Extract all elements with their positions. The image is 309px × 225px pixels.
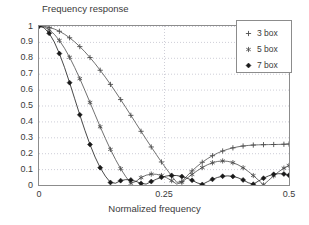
y-tick-label: 0.3 bbox=[0, 133, 33, 142]
data-point-marker bbox=[261, 182, 266, 185]
chart-legend: 3 box5 box7 box bbox=[236, 20, 292, 73]
diamond-icon bbox=[242, 59, 255, 72]
data-point-marker bbox=[246, 30, 251, 35]
y-tick-label: 1 bbox=[0, 22, 33, 31]
data-point-marker bbox=[169, 178, 174, 183]
legend-item-5-box[interactable]: 5 box bbox=[237, 41, 291, 57]
data-point-marker bbox=[88, 142, 93, 147]
data-point-marker bbox=[138, 129, 143, 134]
diamond-marker bbox=[271, 172, 276, 177]
data-point-marker bbox=[118, 97, 123, 102]
diamond-marker bbox=[88, 142, 93, 147]
diamond-marker bbox=[139, 181, 144, 185]
data-point-marker bbox=[251, 142, 256, 147]
data-point-marker bbox=[128, 177, 133, 182]
data-point-marker bbox=[200, 182, 205, 185]
y-tick-label: 0.6 bbox=[0, 85, 33, 94]
chart-root: Frequency response 00.10.20.30.40.50.60.… bbox=[0, 0, 309, 225]
legend-item-7-box[interactable]: 7 box bbox=[237, 57, 291, 73]
data-point-marker bbox=[287, 163, 289, 168]
x-tick-label: 0.5 bbox=[283, 190, 296, 199]
data-point-marker bbox=[118, 178, 123, 183]
x-tick-label: 0 bbox=[36, 190, 41, 199]
data-point-marker bbox=[286, 141, 289, 146]
data-point-marker bbox=[241, 165, 246, 170]
y-tick-label: 0.9 bbox=[0, 37, 33, 46]
data-point-marker bbox=[98, 124, 103, 129]
data-point-marker bbox=[200, 165, 205, 170]
data-point-marker bbox=[261, 142, 266, 147]
diamond-marker bbox=[261, 176, 266, 181]
y-tick-label: 0.2 bbox=[0, 149, 33, 158]
diamond-marker bbox=[251, 182, 256, 185]
diamond-marker bbox=[77, 112, 82, 117]
data-point-marker bbox=[210, 177, 215, 182]
data-point-marker bbox=[98, 165, 103, 170]
data-point-marker bbox=[78, 76, 83, 81]
diamond-marker bbox=[246, 63, 251, 68]
legend-item-3-box[interactable]: 3 box bbox=[237, 25, 291, 41]
data-point-marker bbox=[57, 29, 62, 34]
diamond-marker bbox=[159, 175, 164, 180]
data-point-marker bbox=[139, 181, 144, 185]
diamond-marker bbox=[241, 177, 246, 182]
data-point-marker bbox=[128, 113, 133, 118]
diamond-marker bbox=[179, 174, 184, 179]
data-point-marker bbox=[271, 142, 276, 147]
data-point-marker bbox=[108, 82, 113, 87]
y-tick-label: 0.8 bbox=[0, 53, 33, 62]
diamond-marker bbox=[57, 51, 62, 56]
data-point-marker bbox=[281, 171, 286, 176]
data-point-marker bbox=[261, 176, 266, 181]
diamond-marker bbox=[67, 80, 72, 85]
data-point-marker bbox=[57, 51, 62, 56]
data-point-marker bbox=[159, 175, 164, 180]
data-point-marker bbox=[246, 63, 251, 68]
diamond-marker bbox=[98, 165, 103, 170]
diamond-marker bbox=[128, 177, 133, 182]
data-point-marker bbox=[230, 174, 235, 179]
y-tick-label: 0.7 bbox=[0, 69, 33, 78]
x-tick-label: 0.25 bbox=[155, 190, 173, 199]
data-point-marker bbox=[88, 100, 93, 105]
y-tick-label: 0 bbox=[0, 181, 33, 190]
data-point-marker bbox=[190, 178, 195, 183]
data-point-marker bbox=[287, 173, 290, 178]
data-point-marker bbox=[77, 112, 82, 117]
diamond-marker bbox=[210, 177, 215, 182]
diamond-marker bbox=[200, 182, 205, 185]
plus-icon bbox=[242, 27, 255, 40]
data-point-marker bbox=[282, 166, 287, 171]
data-point-marker bbox=[220, 148, 225, 153]
diamond-marker bbox=[118, 178, 123, 183]
data-point-marker bbox=[281, 142, 286, 147]
data-point-marker bbox=[67, 55, 72, 60]
data-point-marker bbox=[251, 182, 256, 185]
data-point-marker bbox=[149, 179, 154, 184]
data-point-marker bbox=[139, 175, 144, 180]
legend-label: 3 box bbox=[257, 29, 278, 38]
data-point-marker bbox=[159, 159, 164, 164]
diamond-marker bbox=[190, 178, 195, 183]
data-point-marker bbox=[271, 172, 276, 177]
data-point-marker bbox=[149, 144, 154, 149]
data-point-marker bbox=[108, 147, 113, 152]
y-tick-label: 0.4 bbox=[0, 117, 33, 126]
y-axis-label: Frequency response bbox=[42, 3, 129, 14]
y-tick-label: 0.5 bbox=[0, 101, 33, 110]
data-point-marker bbox=[246, 46, 251, 51]
data-point-marker bbox=[241, 177, 246, 182]
diamond-marker bbox=[230, 174, 235, 179]
x-axis-label: Normalized frequency bbox=[0, 203, 309, 214]
y-tick-label: 0.1 bbox=[0, 165, 33, 174]
legend-label: 7 box bbox=[257, 61, 278, 70]
data-point-marker bbox=[179, 174, 184, 179]
legend-label: 5 box bbox=[257, 45, 278, 54]
star-icon bbox=[242, 43, 255, 56]
data-point-marker bbox=[220, 174, 225, 179]
diamond-marker bbox=[287, 173, 290, 178]
diamond-marker bbox=[281, 171, 286, 176]
data-point-marker bbox=[230, 145, 235, 150]
diamond-marker bbox=[220, 174, 225, 179]
data-point-marker bbox=[241, 143, 246, 148]
